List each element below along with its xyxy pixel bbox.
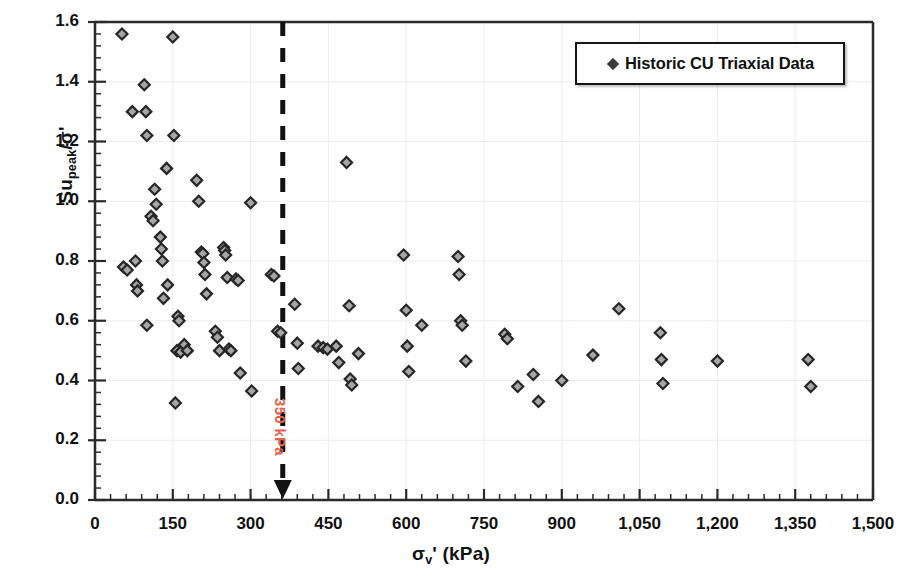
- data-point: [235, 368, 246, 379]
- data-point: [170, 397, 181, 408]
- threshold-label-350kpa: 350 kPa: [272, 398, 289, 456]
- data-point: [151, 199, 162, 210]
- x-tick-label: 150: [138, 514, 208, 534]
- data-point: [127, 106, 138, 117]
- data-point: [803, 354, 814, 365]
- data-point: [292, 338, 303, 349]
- data-point: [657, 378, 668, 389]
- x-tick-label: 1,350: [760, 514, 830, 534]
- data-point: [191, 175, 202, 186]
- gridlines: [95, 22, 873, 500]
- y-tick-label: 1.2: [19, 131, 79, 151]
- data-point: [157, 256, 168, 267]
- data-point: [130, 256, 141, 267]
- data-point: [655, 327, 666, 338]
- data-point: [512, 381, 523, 392]
- x-tick-label: 1,200: [682, 514, 752, 534]
- data-point: [168, 130, 179, 141]
- data-point: [656, 354, 667, 365]
- data-point: [201, 288, 212, 299]
- data-point: [333, 357, 344, 368]
- x-tick-label: 450: [293, 514, 363, 534]
- data-point: [162, 279, 173, 290]
- data-point: [245, 197, 256, 208]
- data-point: [341, 157, 352, 168]
- legend-diamond-icon: [606, 57, 620, 71]
- data-point: [416, 320, 427, 331]
- legend-entry: Historic CU Triaxial Data: [606, 54, 814, 73]
- data-point: [353, 348, 364, 359]
- x-tick-label: 0: [60, 514, 130, 534]
- data-point: [556, 375, 567, 386]
- y-tick-label: 0.8: [19, 250, 79, 270]
- data-point: [613, 303, 624, 314]
- data-point: [712, 356, 723, 367]
- y-tick-label: 0.4: [19, 370, 79, 390]
- x-tick-label: 900: [527, 514, 597, 534]
- data-point: [533, 396, 544, 407]
- data-point: [155, 232, 166, 243]
- data-point: [156, 244, 167, 255]
- y-tick-label: 0.2: [19, 429, 79, 449]
- y-tick-label: 1.4: [19, 71, 79, 91]
- data-point: [344, 300, 355, 311]
- data-point: [587, 350, 598, 361]
- data-point: [140, 106, 151, 117]
- x-tick-label: 1,050: [605, 514, 675, 534]
- y-tick-label: 1.6: [19, 11, 79, 31]
- data-point: [246, 385, 257, 396]
- data-point: [193, 196, 204, 207]
- data-point: [199, 269, 210, 280]
- data-point: [402, 341, 413, 352]
- data-point: [805, 381, 816, 392]
- data-point: [161, 163, 172, 174]
- data-point: [139, 79, 150, 90]
- data-points: [116, 28, 816, 408]
- data-point: [528, 369, 539, 380]
- data-point: [116, 28, 127, 39]
- data-point: [293, 363, 304, 374]
- data-point: [141, 130, 152, 141]
- y-tick-label: 0.6: [19, 310, 79, 330]
- data-point: [403, 366, 414, 377]
- y-tick-label: 0.0: [19, 489, 79, 509]
- scatter-chart: Supeak/σ' σv' (kPa) 0.00.20.40.60.81.01.…: [0, 0, 902, 578]
- x-tick-label: 300: [216, 514, 286, 534]
- data-point: [141, 320, 152, 331]
- data-point: [289, 299, 300, 310]
- data-point: [198, 257, 209, 268]
- legend: Historic CU Triaxial Data: [575, 42, 845, 85]
- plot-area: [0, 0, 902, 578]
- data-point: [453, 251, 464, 262]
- data-point: [454, 269, 465, 280]
- data-point: [149, 184, 160, 195]
- x-tick-label: 1,500: [838, 514, 902, 534]
- data-point: [167, 31, 178, 42]
- x-tick-label: 750: [449, 514, 519, 534]
- data-point: [460, 356, 471, 367]
- data-point: [398, 250, 409, 261]
- y-tick-label: 1.0: [19, 190, 79, 210]
- legend-label: Historic CU Triaxial Data: [625, 54, 814, 73]
- data-point: [401, 305, 412, 316]
- x-tick-label: 600: [371, 514, 441, 534]
- data-point: [158, 293, 169, 304]
